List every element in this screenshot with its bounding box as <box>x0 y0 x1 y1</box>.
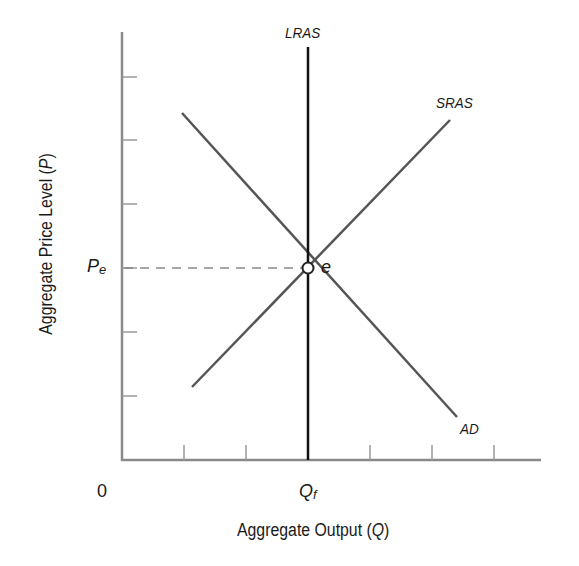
equilibrium-label: e <box>321 257 331 278</box>
sras-curve <box>192 120 450 387</box>
qf-tick-label: Qf <box>299 481 317 502</box>
y-axis <box>122 32 137 461</box>
sras-label: SRAS <box>436 94 473 111</box>
ad-curve <box>182 113 457 417</box>
equilibrium-point <box>303 263 314 274</box>
lras-label: LRAS <box>285 24 320 41</box>
origin-label: 0 <box>97 481 107 502</box>
y-axis-title: Aggregate Price Level (P) <box>36 153 57 334</box>
pe-tick-label: Pe <box>87 256 106 277</box>
x-axis-title: Aggregate Output (Q) <box>237 520 389 541</box>
ad-label: AD <box>460 420 479 437</box>
x-axis <box>121 445 541 460</box>
ad-as-chart: LRAS SRAS AD e Pe Qf 0 Aggregate Output … <box>0 0 579 566</box>
chart-canvas <box>0 0 579 566</box>
